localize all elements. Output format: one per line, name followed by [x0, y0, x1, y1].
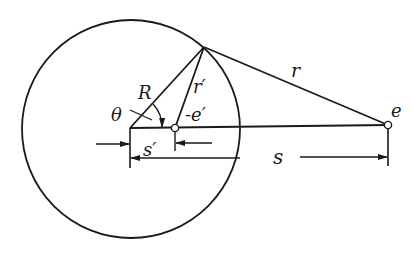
- e-point: [384, 121, 391, 128]
- theta-leader: [130, 110, 152, 120]
- label-e: e: [391, 100, 402, 121]
- label-R: R: [137, 82, 152, 103]
- e-prime-point: [171, 124, 178, 131]
- label-r: r: [291, 59, 302, 81]
- label-s-prime: s′: [143, 139, 156, 160]
- theta-arc: [153, 104, 162, 127]
- label-minus-e-prime: -e′: [185, 104, 206, 125]
- circle: [22, 20, 240, 238]
- diagram-canvas: R θ r′ -e′ r e s′ s: [0, 0, 412, 254]
- label-theta: θ: [111, 104, 122, 125]
- label-r-prime: r′: [193, 76, 206, 97]
- label-s: s: [273, 145, 283, 169]
- axis-line: [130, 125, 388, 128]
